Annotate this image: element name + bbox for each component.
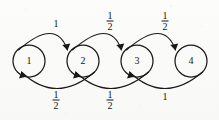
edge-path-4-to-3 (130, 72, 203, 89)
edge-2-to-1 (19, 72, 95, 89)
edge-label-3-to-2-denominator: 2 (107, 101, 114, 111)
node-label-3: 3 (127, 56, 147, 66)
edge-label-1-to-2: 1 (54, 19, 59, 30)
arrowhead-into-4-top (170, 43, 178, 50)
arrowhead-into-2-top (62, 43, 70, 50)
node-label-1: 1 (19, 56, 39, 66)
edge-label-3-to-4-denominator: 2 (162, 22, 169, 32)
edge-label-3-to-2-fraction: 1 2 (107, 90, 114, 111)
edge-label-2-to-1-fraction: 1 2 (53, 90, 60, 111)
arrowhead-into-3-top (116, 43, 124, 50)
edge-path-3-to-2 (76, 72, 149, 89)
edge-label-2-to-1: 1 2 (53, 90, 60, 111)
edge-label-2-to-1-denominator: 2 (53, 101, 60, 111)
edge-label-2-to-3: 1 2 (107, 11, 114, 32)
edge-label-3-to-2: 1 2 (107, 90, 114, 111)
node-label-2: 2 (73, 56, 93, 66)
markov-chain-figure: 1 2 3 4 1 1 2 1 2 1 2 1 2 1 (0, 0, 219, 120)
edge-label-3-to-4: 1 2 (162, 11, 169, 32)
edge-label-4-to-3-value: 1 (163, 92, 168, 102)
node-label-4: 4 (181, 56, 201, 66)
edge-path-2-to-3 (73, 34, 122, 51)
edge-label-2-to-3-denominator: 2 (107, 22, 114, 32)
edge-label-3-to-4-fraction: 1 2 (162, 11, 169, 32)
edge-path-3-to-4 (127, 34, 176, 51)
edge-3-to-4 (127, 34, 179, 51)
edge-path-2-to-1 (22, 72, 95, 89)
edge-label-1-to-2-value: 1 (54, 19, 59, 29)
edge-label-2-to-3-fraction: 1 2 (107, 11, 114, 32)
edge-1-to-2 (19, 34, 71, 51)
edge-2-to-3 (73, 34, 125, 51)
edge-label-4-to-3: 1 (163, 92, 168, 103)
edge-path-1-to-2 (19, 34, 68, 51)
